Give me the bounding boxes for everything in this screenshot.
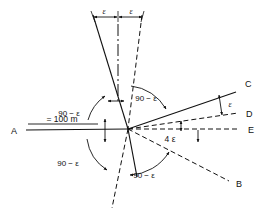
point-label-d: D — [246, 109, 253, 119]
angle-label-upper-right: 90 − ε — [135, 94, 157, 103]
point-label-c: C — [245, 79, 252, 89]
angle-label-lower-right: 90 − ε — [133, 171, 155, 180]
point-label-b: B — [236, 179, 242, 189]
diagram-background — [0, 0, 271, 219]
diagram-canvas: ε ε 90 − ε 90 − ε 90 − ε 90 − ε = 100 m … — [0, 0, 271, 219]
angle-label-lower-left: 90 − ε — [57, 159, 79, 168]
point-label-e: E — [248, 125, 254, 135]
four-epsilon-label: 4 ε — [165, 134, 176, 144]
baseline-length-label: = 100 m — [47, 114, 78, 124]
point-label-a: A — [11, 126, 17, 136]
angle-diagram: ε ε 90 − ε 90 − ε 90 − ε 90 − ε = 100 m … — [0, 0, 271, 219]
